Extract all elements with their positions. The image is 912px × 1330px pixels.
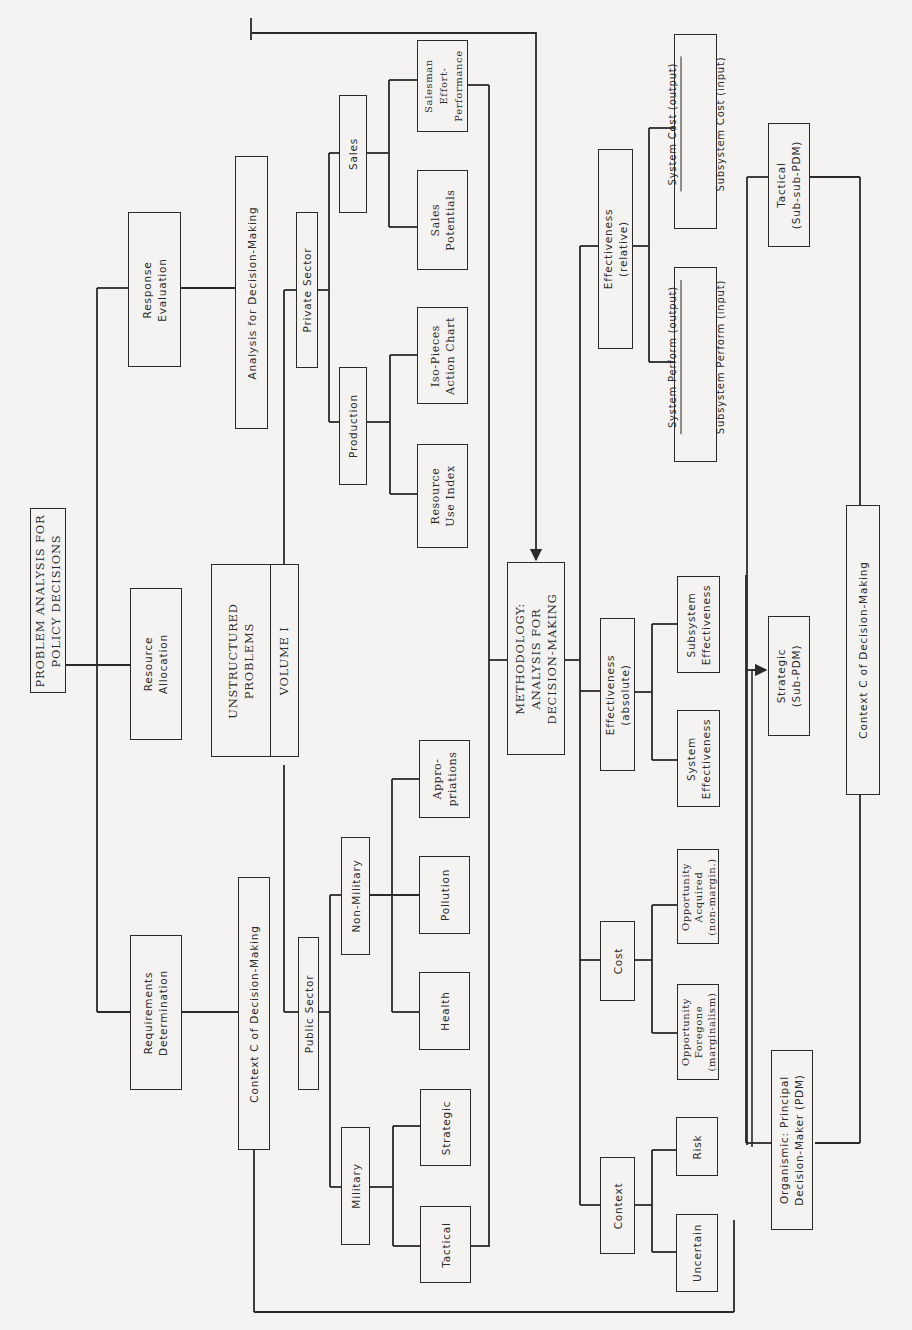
production-box: Production [339,367,367,485]
system-perform-ratio: System Perform (output) Subsystem Perfor… [619,279,772,449]
system-cost-output: System Cost (output) [664,56,681,191]
effectiveness-relative-label: Effectiveness (relative) [601,209,631,289]
system-perform-output: System Perform (output) [664,279,681,433]
cost-branch-label: Cost [610,948,625,975]
effectiveness-absolute-box: Effectiveness (absolute) [600,618,635,771]
context-c-right-label: Context C of Decision-Making [856,561,871,738]
organismic-pdm-label: Organismic: Principal Decision-Maker (PD… [777,1074,807,1205]
sales-label: Sales [346,138,361,170]
opportunity-foregone-box: Opportunity Foregone (marginalism) [677,984,719,1080]
resource-allocation-box: Resource Allocation [130,588,182,740]
subsystem-cost-input: Subsystem Cost (input) [711,56,727,191]
response-evaluation-label: Response Evaluation [140,258,170,321]
iso-pieces-action-chart-box: Iso-Pieces Action Chart [417,307,468,404]
military-label: Military [348,1163,363,1208]
tactical-military-box: Tactical [420,1206,471,1283]
context-c-left-box: Context C of Decision-Making [238,877,270,1150]
analysis-for-decision-making-box: Analysis for Decision-Making [235,156,268,429]
strategic-sub-pdm-label: Strategic (Sub-PDM) [774,645,804,708]
health-label: Health [437,991,452,1030]
production-label: Production [346,394,361,458]
tactical-sub-sub-pdm-label: Tactical (Sub-sub-PDM) [774,141,804,229]
opportunity-foregone-label: Opportunity Foregone (marginalism) [679,993,718,1072]
methodology-title: METHODOLOGY: ANALYSIS FOR DECISION-MAKIN… [512,593,560,724]
cost-branch-box: Cost [600,921,635,1001]
response-evaluation-box: Response Evaluation [128,212,181,367]
pollution-box: Pollution [419,856,470,934]
context-branch-box: Context [600,1157,635,1254]
risk-box: Risk [676,1117,718,1176]
iso-pieces-action-chart-label: Iso-Pieces Action Chart [428,316,458,394]
root-title: PROBLEM ANALYSIS FOR POLICY DECISIONS [32,514,64,687]
system-perform-ratio-box: System Perform (output) Subsystem Perfor… [674,267,717,462]
military-box: Military [341,1127,370,1245]
sales-potentials-label: Sales Potentials [428,189,458,250]
organismic-pdm-box: Organismic: Principal Decision-Maker (PD… [771,1050,813,1230]
private-sector-label: Private Sector [300,248,315,333]
system-cost-ratio-box: System Cost (output) Subsystem Cost (inp… [674,34,717,229]
volume-tag: VOLUME I [276,626,292,695]
system-cost-ratio: System Cost (output) Subsystem Cost (inp… [619,56,772,207]
salesman-effort-performance-box: Salesman Effort- Performance [417,40,468,132]
salesman-effort-performance-label: Salesman Effort- Performance [420,50,465,121]
resource-allocation-label: Resource Allocation [141,634,171,694]
context-branch-label: Context [610,1182,625,1229]
opportunity-acquired-box: Opportunity Acquired (non-margin.) [677,849,719,944]
tactical-military-label: Tactical [438,1222,453,1267]
appropriations-label: Appro- priations [430,751,460,806]
subsystem-perform-input: Subsystem Perform (input) [711,279,727,433]
health-box: Health [419,972,470,1050]
unstructured-problems-box: UNSTRUCTURED PROBLEMS VOLUME I [211,564,299,757]
analysis-for-decision-making-label: Analysis for Decision-Making [244,206,259,379]
requirements-determination-box: Requirements Determination [130,935,182,1090]
non-military-box: Non-Military [341,837,370,955]
non-military-label: Non-Military [348,859,363,932]
resource-use-index-box: Resource Use Index [417,444,468,548]
resource-use-index-label: Resource Use Index [428,465,458,527]
tactical-sub-sub-pdm-box: Tactical (Sub-sub-PDM) [768,123,810,247]
subsystem-effectiveness-box: Subsystem Effectiveness [677,576,720,673]
strategic-military-box: Strategic [420,1089,471,1166]
public-sector-label: Public Sector [301,974,316,1053]
methodology-box: METHODOLOGY: ANALYSIS FOR DECISION-MAKIN… [507,562,565,755]
system-effectiveness-box: System Effectiveness [677,710,720,807]
effectiveness-absolute-label: Effectiveness (absolute) [603,654,633,734]
context-c-right-box: Context C of Decision-Making [846,505,880,795]
sales-box: Sales [339,95,367,213]
uncertain-box: Uncertain [676,1214,718,1292]
strategic-sub-pdm-box: Strategic (Sub-PDM) [768,616,810,736]
strategic-military-label: Strategic [438,1100,453,1155]
system-effectiveness-label: System Effectiveness [684,718,714,798]
opportunity-acquired-label: Opportunity Acquired (non-margin.) [679,858,718,935]
unstructured-problems-title: UNSTRUCTURED PROBLEMS [225,603,257,719]
cost-fraction: System Cost (output) Subsystem Cost (inp… [634,56,757,191]
private-sector-box: Private Sector [296,212,318,368]
perform-fraction: System Perform (output) Subsystem Perfor… [634,279,757,433]
context-c-left-label: Context C of Decision-Making [247,925,262,1102]
requirements-determination-label: Requirements Determination [141,969,171,1055]
volume-divider [270,565,271,756]
public-sector-box: Public Sector [298,937,319,1090]
subsystem-effectiveness-label: Subsystem Effectiveness [684,584,714,664]
root-title-box: PROBLEM ANALYSIS FOR POLICY DECISIONS [30,508,66,693]
risk-label: Risk [690,1134,705,1159]
sales-potentials-box: Sales Potentials [417,170,468,270]
uncertain-label: Uncertain [690,1224,705,1282]
appropriations-box: Appro- priations [419,740,470,818]
pollution-label: Pollution [437,869,452,921]
